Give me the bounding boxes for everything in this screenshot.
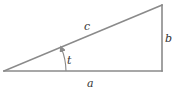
label-a: a: [87, 77, 94, 90]
angle-t-arc-icon: [62, 49, 67, 72]
label-c: c: [84, 20, 90, 33]
label-t: t: [67, 54, 72, 67]
label-b: b: [165, 32, 172, 45]
right-triangle-diagram: c b a t: [0, 0, 174, 97]
hypotenuse-c-line: [4, 5, 162, 71]
